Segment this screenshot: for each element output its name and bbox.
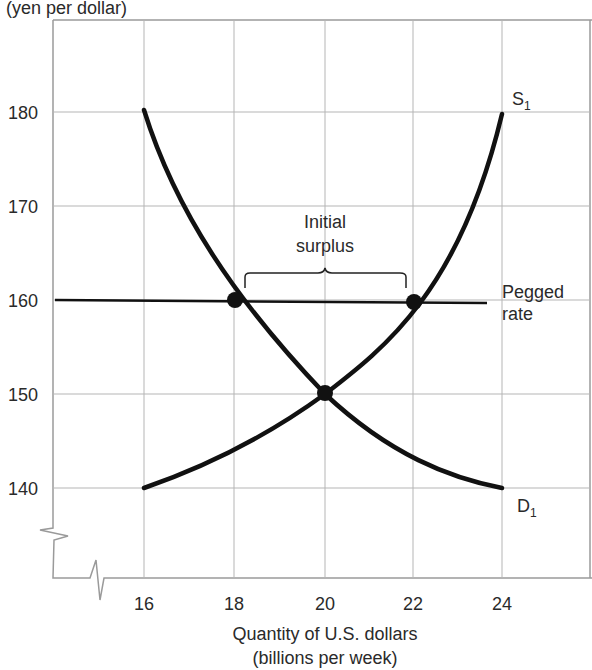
x-axis-label-line2: (billions per week) bbox=[252, 648, 397, 668]
point-22-160 bbox=[406, 294, 422, 310]
y-tick-170: 170 bbox=[8, 197, 38, 217]
surplus-label-line2: surplus bbox=[296, 236, 354, 256]
y-tick-140: 140 bbox=[8, 479, 38, 499]
x-tick-22: 22 bbox=[403, 594, 423, 614]
point-18-160 bbox=[227, 292, 243, 308]
y-tick-180: 180 bbox=[8, 103, 38, 123]
x-tick-18: 18 bbox=[224, 594, 244, 614]
chart: (yen per dollar) 180 170 160 150 140 16 … bbox=[0, 0, 592, 670]
pegged-label-line2: rate bbox=[502, 304, 533, 324]
point-20-150 bbox=[317, 385, 333, 401]
y-tick-150: 150 bbox=[8, 385, 38, 405]
demand-curve bbox=[144, 110, 502, 488]
x-tick-20: 20 bbox=[315, 594, 335, 614]
x-tick-16: 16 bbox=[134, 594, 154, 614]
demand-label: D1 bbox=[517, 496, 537, 520]
y-axis-label: (yen per dollar) bbox=[6, 0, 127, 18]
x-tick-24: 24 bbox=[492, 594, 512, 614]
supply-label: S1 bbox=[512, 89, 531, 113]
surplus-label-line1: Initial bbox=[304, 212, 346, 232]
x-axis-label-line1: Quantity of U.S. dollars bbox=[232, 624, 417, 644]
y-tick-160: 160 bbox=[8, 291, 38, 311]
pegged-label-line1: Pegged bbox=[502, 282, 564, 302]
